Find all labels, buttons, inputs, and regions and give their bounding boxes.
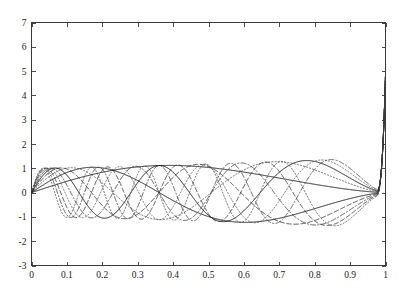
x-tick-label-4: 0.4 — [167, 270, 179, 280]
y-tick-label-6: 3 — [22, 115, 27, 125]
y-tick-label-10: 7 — [22, 18, 27, 28]
y-tick-label-9: 6 — [22, 42, 27, 52]
y-tick-label-3: 0 — [22, 188, 27, 198]
x-tick-label-3: 0.3 — [132, 270, 144, 280]
x-tick-label-8: 0.8 — [309, 270, 321, 280]
x-tick-label-0: 0 — [29, 270, 34, 280]
y-tick-label-8: 5 — [22, 67, 27, 77]
y-tick-label-7: 4 — [22, 91, 27, 101]
x-tick-label-9: 0.9 — [344, 270, 356, 280]
x-tick-label-10: 1 — [383, 270, 388, 280]
x-tick-label-6: 0.6 — [238, 270, 250, 280]
figure-background — [0, 0, 405, 302]
y-tick-label-1: -2 — [19, 237, 27, 247]
y-tick-label-0: -3 — [19, 261, 27, 271]
x-tick-label-7: 0.7 — [273, 270, 285, 280]
figure-container: 00.10.20.30.40.50.60.70.80.91 -3-2-10123… — [0, 0, 405, 302]
y-tick-label-5: 2 — [22, 140, 27, 150]
y-tick-label-4: 1 — [22, 164, 27, 174]
y-tick-label-2: -1 — [19, 212, 27, 222]
x-tick-label-1: 0.1 — [61, 270, 73, 280]
x-tick-label-5: 0.5 — [203, 270, 215, 280]
x-tick-label-2: 0.2 — [96, 270, 108, 280]
chart-canvas: 00.10.20.30.40.50.60.70.80.91 -3-2-10123… — [0, 0, 405, 302]
